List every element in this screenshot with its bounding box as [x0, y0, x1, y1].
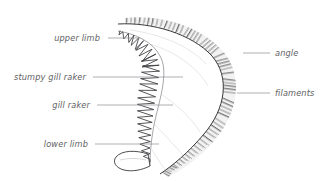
label-filaments: filaments — [275, 89, 314, 97]
label-angle: angle — [275, 49, 298, 57]
gill-arch-diagram: upper limb stumpy gill raker gill raker … — [0, 0, 322, 181]
label-lower-limb: lower limb — [44, 140, 88, 148]
label-stumpy-gill-raker: stumpy gill raker — [14, 73, 86, 81]
label-upper-limb: upper limb — [54, 34, 100, 42]
lower-limb-tip — [114, 151, 150, 170]
label-gill-raker: gill raker — [52, 101, 90, 109]
diagram-canvas — [0, 0, 322, 181]
